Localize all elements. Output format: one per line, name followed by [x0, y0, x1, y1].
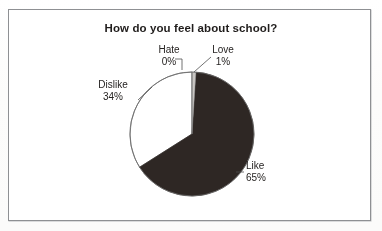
- slice-label-dislike: Dislike 34%: [90, 79, 136, 102]
- slice-label-dislike-name: Dislike: [90, 79, 136, 91]
- slice-label-hate-value: 0%: [152, 56, 186, 68]
- slice-label-like: Like 65%: [246, 160, 290, 183]
- slice-label-like-name: Like: [246, 160, 290, 172]
- slice-label-love: Love 1%: [206, 44, 240, 67]
- page-root: How do you feel about school? Hate: [0, 0, 382, 231]
- slice-label-love-name: Love: [206, 44, 240, 56]
- slice-label-hate: Hate 0%: [152, 44, 186, 67]
- slice-label-like-value: 65%: [246, 172, 290, 184]
- pie-graphic: [0, 0, 382, 231]
- slice-label-hate-name: Hate: [152, 44, 186, 56]
- pie-chart: How do you feel about school? Hate: [0, 0, 382, 231]
- slice-label-dislike-value: 34%: [90, 91, 136, 103]
- slice-label-love-value: 1%: [206, 56, 240, 68]
